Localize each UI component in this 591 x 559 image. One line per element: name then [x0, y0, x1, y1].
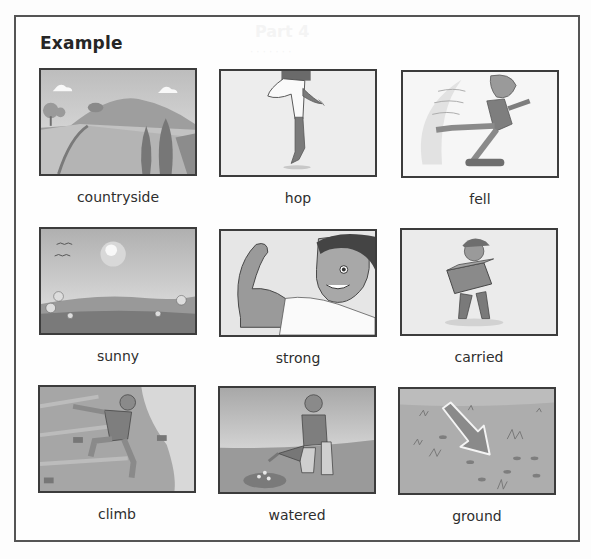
word-label: strong [219, 350, 377, 366]
strong-picture [219, 229, 377, 337]
word-label: hop [219, 190, 377, 206]
fell-picture [401, 70, 559, 178]
word-label: countryside [39, 189, 197, 205]
hop-picture [219, 69, 377, 177]
word-card: sunny [39, 227, 197, 364]
word-label: carried [400, 349, 558, 365]
ground-picture [398, 387, 556, 495]
word-card: carried [400, 228, 558, 365]
word-card: strong [219, 229, 377, 366]
watered-picture [218, 386, 376, 494]
countryside-picture [39, 68, 197, 176]
word-card: hop [219, 69, 377, 206]
word-card: watered [218, 386, 376, 523]
word-card: climb [38, 385, 196, 522]
section-title: Example [40, 33, 123, 53]
word-card: ground [398, 387, 556, 524]
word-label: sunny [39, 348, 197, 364]
climb-picture [38, 385, 196, 493]
word-label: watered [218, 507, 376, 523]
word-card: countryside [39, 68, 197, 205]
carried-picture [400, 228, 558, 336]
word-label: ground [398, 508, 556, 524]
word-card: fell [401, 70, 559, 207]
word-label: fell [401, 191, 559, 207]
word-label: climb [38, 506, 196, 522]
sunny-picture [39, 227, 197, 335]
